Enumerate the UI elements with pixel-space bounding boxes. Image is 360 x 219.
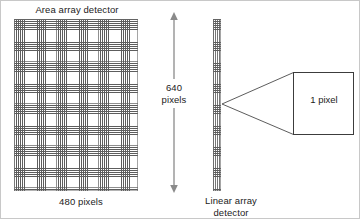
height-dimension-label: 640 pixels (149, 79, 199, 108)
callout-wedge (222, 73, 294, 135)
figure-annotations (1, 1, 360, 219)
height-dimension-value: 640 (166, 82, 182, 93)
magnified-pixel-label: 1 pixel (294, 94, 354, 105)
height-dimension-unit: pixels (162, 94, 187, 105)
detector-comparison-figure: Area array detector 480 pixels Linear ar… (0, 0, 360, 219)
